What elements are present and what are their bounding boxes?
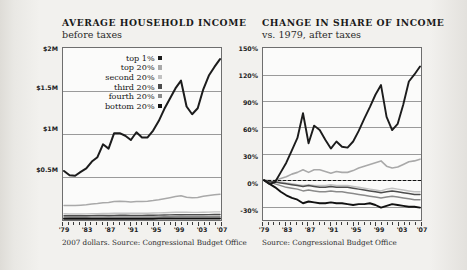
axis-tick [415,222,416,225]
legend-label-second-20: second 20% [105,72,154,82]
legend-swatch-bottom-20 [158,104,162,108]
legend-swatch-top-1 [158,56,162,60]
left-chart-source: 2007 dollars. Source: Congressional Budg… [62,238,247,247]
legend-item-second-20: second 20% [66,72,162,82]
axis-tick [302,222,303,225]
left-xtick-87: '87 [100,226,120,233]
legend-label-fourth-20: fourth 20% [109,91,155,101]
axis-tick [324,222,325,225]
right-xtick-87: '87 [300,226,320,233]
legend-swatch-fourth-20 [158,94,162,98]
right-chart-subtitle: vs. 1979, after taxes [262,29,361,40]
right-ytick-30: 30% [222,153,258,160]
axis-tick [341,222,342,225]
axis-tick [364,222,365,225]
axis-tick [102,222,103,225]
axis-tick [96,222,97,225]
axis-tick [90,222,91,225]
right-ytick-60: 60% [222,126,258,133]
right-plot-area [262,47,422,221]
right-chart-panel: CHANGE IN SHARE OF INCOME vs. 1979, afte… [234,0,467,270]
axis-tick [336,222,337,225]
legend-item-top-20: top 20% [66,63,162,73]
legend-item-top-1: top 1% [66,53,162,63]
axis-tick [370,222,371,225]
axis-tick [79,222,80,225]
left-xtick-07: '07 [212,226,232,233]
series-line [64,214,220,215]
right-xtick-91: '91 [323,226,343,233]
axis-tick [392,222,393,225]
left-xtick-91: '91 [123,226,143,233]
axis-tick [215,222,216,225]
right-xtick-03: '03 [392,226,412,233]
axis-tick [313,222,314,225]
axis-tick [404,222,405,225]
right-chart-source: Source: Congressional Budget Office [262,238,397,247]
axis-tick [147,222,148,225]
axis-tick [387,222,388,225]
figure-root: AVERAGE HOUSEHOLD INCOME before taxes $2… [0,0,467,270]
left-ytick-1m: $1M [16,125,58,132]
left-chart-legend: top 1% top 20% second 20% third 20% four… [66,53,162,111]
right-xtick-83: '83 [277,226,297,233]
left-ytick-1-5m: $1.5M [16,84,58,91]
axis-tick [192,222,193,225]
axis-tick [409,222,410,225]
legend-label-third-20: third 20% [114,82,155,92]
legend-swatch-top-20 [158,65,162,69]
axis-tick [279,222,280,225]
left-chart-title: AVERAGE HOUSEHOLD INCOME [62,17,246,28]
right-xtick-79: '79 [254,226,274,233]
axis-tick [73,222,74,225]
legend-swatch-second-20 [158,75,162,79]
legend-item-bottom-20: bottom 20% [66,101,162,111]
right-ytick-0: 0% [222,180,258,187]
legend-label-bottom-20: bottom 20% [105,101,155,111]
legend-item-third-20: third 20% [66,82,162,92]
legend-label-top-1: top 1% [126,53,155,63]
left-xtick-79: '79 [54,226,74,233]
series-line [64,216,220,217]
axis-tick [158,222,159,225]
axis-tick [113,222,114,225]
series-line [64,212,220,214]
axis-tick [136,222,137,225]
right-xtick-99: '99 [369,226,389,233]
axis-tick [209,222,210,225]
right-ytick-150: 150% [222,45,258,52]
axis-tick [124,222,125,225]
right-ytick-neg30: -30% [222,207,258,214]
axis-tick [273,222,274,225]
axis-tick [347,222,348,225]
right-xtick-95: '95 [346,226,366,233]
series-line [264,67,420,184]
axis-tick [268,222,269,225]
axis-tick [170,222,171,225]
axis-tick [319,222,320,225]
right-xtick-07: '07 [412,226,432,233]
left-ytick-0-5m: $0.5M [16,166,58,173]
right-xaxis-labels: '79 '83 '87 '91 '95 '99 '03 '07 [262,226,422,236]
left-chart-subtitle: before taxes [62,29,122,40]
series-line [264,180,420,191]
axis-tick [381,222,382,225]
axis-tick [290,222,291,225]
legend-item-fourth-20: fourth 20% [66,91,162,101]
axis-tick [187,222,188,225]
left-xtick-95: '95 [146,226,166,233]
axis-tick [204,222,205,225]
right-ytick-90: 90% [222,99,258,106]
right-ytick-120: 120% [222,72,258,79]
left-xtick-99: '99 [169,226,189,233]
left-xtick-03: '03 [192,226,212,233]
series-line [64,194,220,205]
axis-tick [141,222,142,225]
series-lines [263,48,421,220]
axis-tick [164,222,165,225]
left-ytick-2m: $2M [16,45,58,52]
left-xtick-83: '83 [77,226,97,233]
axis-tick [68,222,69,225]
right-chart-title: CHANGE IN SHARE OF INCOME [262,17,444,28]
left-chart-panel: AVERAGE HOUSEHOLD INCOME before taxes $2… [0,0,234,270]
